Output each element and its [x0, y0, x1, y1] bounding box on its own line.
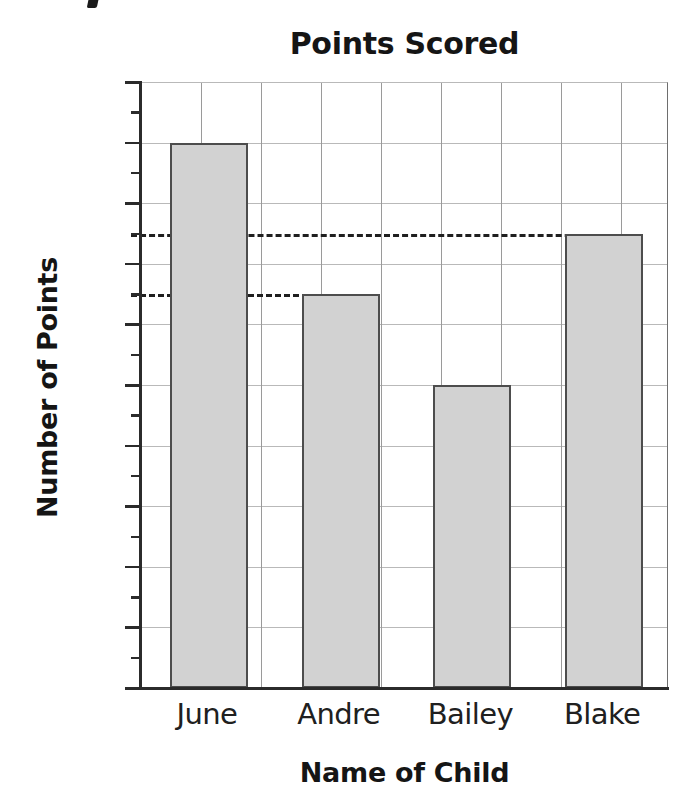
y-tick-minor [131, 172, 141, 175]
y-tick-minor [131, 354, 141, 357]
y-tick-minor [131, 536, 141, 539]
x-tick-label-andre: Andre [273, 697, 405, 731]
y-tick-major [125, 81, 141, 84]
gridline-vertical [561, 82, 562, 688]
y-tick-minor [131, 414, 141, 417]
bar-blake[interactable] [565, 234, 643, 689]
x-tick-label-blake: Blake [536, 697, 668, 731]
y-tick-major [125, 566, 141, 569]
y-tick-major [125, 323, 141, 326]
y-tick-major [125, 384, 141, 387]
y-tick-major [125, 626, 141, 629]
y-tick-minor [131, 657, 141, 660]
plot-area [141, 82, 668, 688]
x-axis-title: Name of Child [141, 757, 668, 788]
y-tick-minor [131, 233, 141, 236]
y-tick-minor [131, 596, 141, 599]
y-tick-major [125, 142, 141, 145]
gridline-vertical [261, 82, 262, 688]
bar-chart-figure: Points Scored 0102030405060708090100 Jun… [0, 0, 693, 812]
gridline-horizontal [141, 82, 668, 83]
x-tick-label-bailey: Bailey [405, 697, 537, 731]
bar-bailey[interactable] [433, 385, 511, 688]
y-axis-title: Number of Points [32, 178, 63, 598]
bar-june[interactable] [170, 143, 248, 688]
x-tick-label-june: June [141, 697, 273, 731]
y-tick-major [125, 505, 141, 508]
y-tick-minor [131, 475, 141, 478]
y-tick-major [125, 263, 141, 266]
chart-title: Points Scored [141, 26, 668, 61]
y-tick-major [125, 445, 141, 448]
y-tick-major [125, 202, 141, 205]
y-tick-major [125, 687, 141, 690]
cropped-text-artifact [87, 0, 100, 8]
x-axis-spine [139, 687, 669, 690]
bar-andre[interactable] [302, 294, 380, 688]
y-tick-minor [131, 293, 141, 296]
gridline-vertical [381, 82, 382, 688]
y-tick-minor [131, 111, 141, 114]
